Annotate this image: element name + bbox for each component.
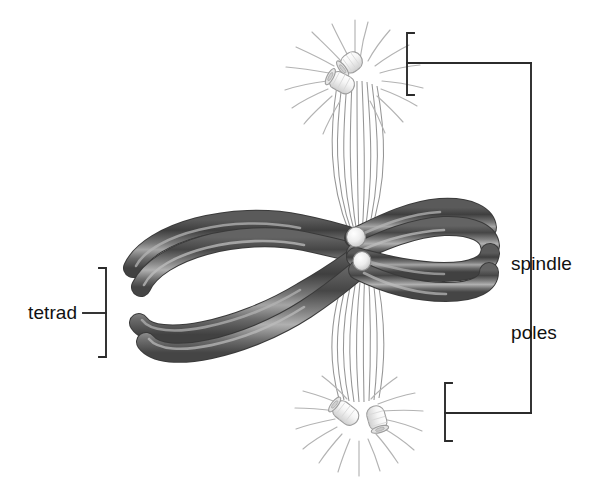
centriole-pair-bottom [327, 395, 390, 434]
spindle-poles-label-line1: spindle [511, 252, 572, 275]
aster-rays-bottom [295, 376, 423, 476]
spindle-poles-label: spindle poles [511, 206, 572, 390]
spindle-fibers-upper [332, 81, 383, 237]
centromere-upper [347, 227, 366, 247]
spindle-poles-label-line2: poles [511, 321, 572, 344]
bracket-tetrad [83, 268, 106, 357]
tetrad-chromatids [133, 208, 490, 353]
aster-rays-top [285, 20, 423, 134]
centriole-pair-top [323, 48, 366, 97]
bracket-bottom-pole [445, 383, 531, 441]
tetrad-label: tetrad [28, 301, 77, 324]
centromere-lower [353, 252, 371, 271]
figure-root: spindle poles tetrad [0, 0, 603, 490]
bracket-top-pole [407, 33, 531, 95]
